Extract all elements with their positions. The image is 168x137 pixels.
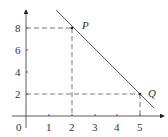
x-tick-label-5: 5 [137, 121, 143, 133]
y-tick-label-8: 8 [15, 22, 21, 34]
y-tick-label-4: 4 [15, 66, 21, 78]
point-p [71, 27, 74, 30]
y-tick-label-2: 2 [15, 88, 21, 100]
x-tick-label-1: 1 [46, 121, 52, 133]
x-tick-label-4: 4 [114, 121, 120, 133]
x-tick-label-2: 2 [69, 121, 75, 133]
point-q-label: Q [148, 87, 156, 99]
coordinate-plot: 0 1 2 3 4 5 8 6 4 2 P Q [0, 0, 168, 137]
y-tick-label-6: 6 [15, 44, 21, 56]
projection-lines [26, 28, 140, 116]
point-q [139, 93, 142, 96]
origin-label: 0 [16, 121, 22, 133]
x-tick-label-3: 3 [92, 121, 98, 133]
point-p-label: P [81, 19, 89, 31]
